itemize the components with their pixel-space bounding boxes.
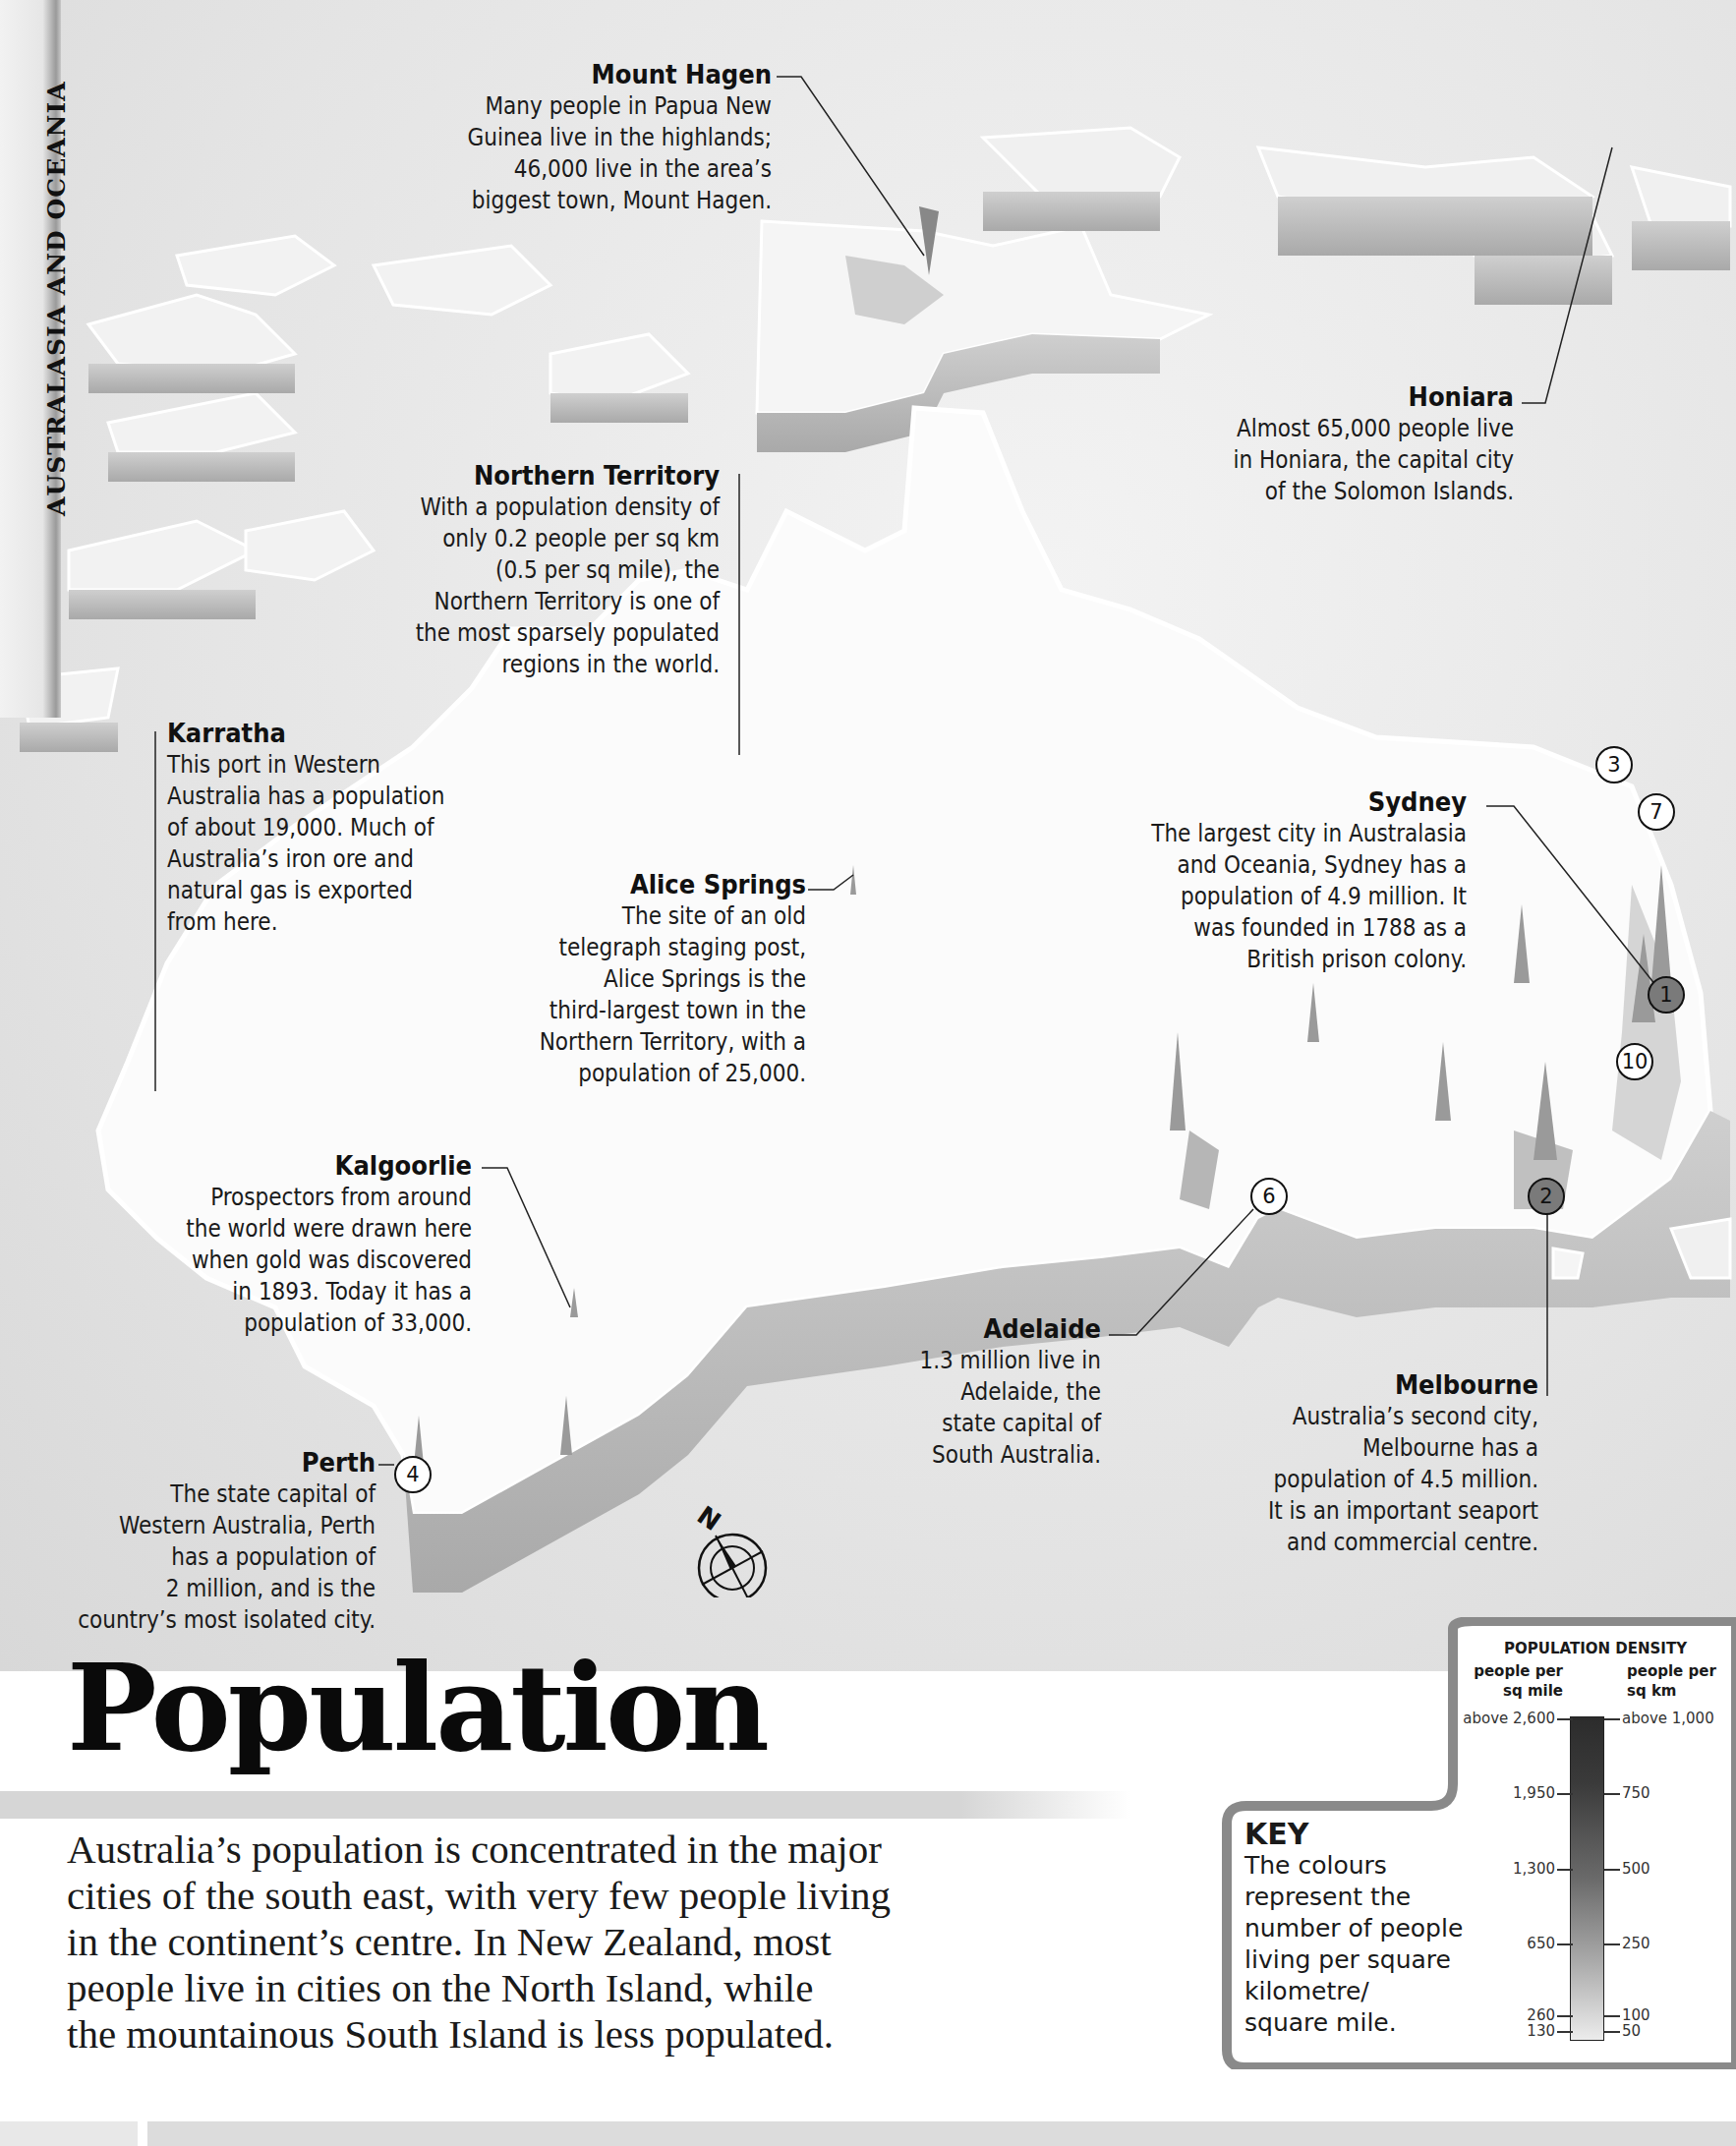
legend-tick-right: above 1,000 (1622, 1711, 1714, 1726)
key-heading: KEY (1244, 1819, 1463, 1850)
annotation-title: Melbourne (1199, 1369, 1538, 1401)
legend-tick-left: 130 (1418, 2023, 1555, 2039)
legend-tick-right: 50 (1622, 2023, 1641, 2039)
annotation-northern-territory: Northern Territory With a population den… (354, 460, 720, 680)
legend-tick-left: 260 (1418, 2007, 1555, 2023)
annotation-perth: Perth The state capital of Western Austr… (0, 1447, 376, 1636)
annotation-body: With a population density of only 0.2 pe… (354, 492, 720, 680)
section-tab: AUSTRALASIA AND OCEANIA (0, 0, 61, 718)
density-color-bar (1570, 1716, 1604, 2041)
intro-line: people live in cities on the North Islan… (67, 1965, 1099, 2011)
annotation-sydney: Sydney The largest city in Australasia a… (1081, 786, 1467, 975)
city-marker-4-perth[interactable]: 4 (394, 1456, 432, 1493)
legend-tick-mark (1557, 1943, 1573, 1945)
page-title: Population (67, 1637, 767, 1778)
annotation-body: The site of an old telegraph staging pos… (462, 900, 806, 1089)
svg-text:N: N (692, 1500, 726, 1537)
legend-tick-mark (1557, 1869, 1573, 1871)
city-marker-10[interactable]: 10 (1616, 1043, 1653, 1080)
intro-line: the mountainous South Island is less pop… (67, 2011, 1099, 2058)
key-description: KEY The colours represent the number of … (1244, 1819, 1463, 2039)
annotation-body: 1.3 million live in Adelaide, the state … (865, 1345, 1101, 1471)
legend-tick-left: 650 (1418, 1936, 1555, 1951)
legend-tick-mark (1604, 2031, 1620, 2033)
annotation-body: This port in Western Australia has a pop… (167, 749, 501, 938)
legend-tick-mark (1557, 2015, 1573, 2017)
city-marker-7[interactable]: 7 (1638, 793, 1675, 831)
annotation-alice-springs: Alice Springs The site of an old telegra… (462, 869, 806, 1089)
annotation-title: Perth (0, 1447, 376, 1479)
footer-band (0, 2121, 138, 2146)
annotation-body: The state capital of Western Australia, … (0, 1479, 376, 1636)
intro-line: Australia’s population is concentrated i… (67, 1827, 1099, 1873)
legend-tick-left: above 2,600 (1418, 1711, 1555, 1726)
legend-unit-sq-mile: people per sq mile (1465, 1661, 1563, 1701)
footer-band (147, 2121, 1736, 2146)
annotation-kalgoorlie: Kalgoorlie Prospectors from around the w… (128, 1150, 472, 1339)
legend-tick-right: 250 (1622, 1936, 1650, 1951)
legend-tick-right: 500 (1622, 1861, 1650, 1877)
annotation-title: Honiara (1150, 381, 1514, 413)
legend-title: POPULATION DENSITY (1455, 1640, 1736, 1657)
section-tab-label: AUSTRALASIA AND OCEANIA (42, 81, 71, 516)
annotation-title: Mount Hagen (413, 59, 772, 90)
city-marker-2-melbourne[interactable]: 2 (1528, 1178, 1565, 1215)
city-marker-1-sydney[interactable]: 1 (1648, 976, 1685, 1014)
annotation-title: Alice Springs (462, 869, 806, 900)
title-divider-band (0, 1791, 1130, 1819)
annotation-title: Sydney (1081, 786, 1467, 818)
legend-tick-mark (1604, 1793, 1620, 1795)
legend-tick-left: 1,950 (1418, 1785, 1555, 1801)
annotation-karratha: Karratha This port in Western Australia … (167, 718, 501, 938)
tasmania (1553, 1248, 1583, 1278)
legend-unit-sq-km: people per sq km (1627, 1661, 1735, 1701)
annotation-title: Northern Territory (354, 460, 720, 492)
annotation-melbourne: Melbourne Australia’s second city, Melbo… (1199, 1369, 1538, 1558)
annotation-body: The largest city in Australasia and Ocea… (1081, 818, 1467, 975)
intro-line: cities of the south east, with very few … (67, 1873, 1099, 1919)
legend-tick-mark (1557, 2031, 1573, 2033)
compass-rose-icon: N (678, 1489, 777, 1601)
annotation-body: Prospectors from around the world were d… (128, 1182, 472, 1339)
legend-tick-mark (1604, 1869, 1620, 1871)
annotation-body: Australia’s second city, Melbourne has a… (1199, 1401, 1538, 1558)
annotation-body: Almost 65,000 people live in Honiara, th… (1150, 413, 1514, 507)
legend-tick-mark (1557, 1718, 1573, 1720)
city-marker-3[interactable]: 3 (1595, 746, 1633, 783)
legend-tick-left: 1,300 (1418, 1861, 1555, 1877)
annotation-honiara: Honiara Almost 65,000 people live in Hon… (1150, 381, 1514, 507)
legend-tick-mark (1557, 1793, 1573, 1795)
annotation-title: Kalgoorlie (128, 1150, 472, 1182)
annotation-body: Many people in Papua New Guinea live in … (413, 90, 772, 216)
city-marker-6-adelaide[interactable]: 6 (1250, 1178, 1288, 1215)
legend-tick-right: 750 (1622, 1785, 1650, 1801)
intro-line: in the continent’s centre. In New Zealan… (67, 1919, 1099, 1965)
annotation-adelaide: Adelaide 1.3 million live in Adelaide, t… (865, 1313, 1101, 1471)
legend-tick-mark (1604, 1718, 1620, 1720)
annotation-mount-hagen: Mount Hagen Many people in Papua New Gui… (413, 59, 772, 216)
legend-tick-mark (1604, 1943, 1620, 1945)
annotation-title: Adelaide (865, 1313, 1101, 1345)
annotation-title: Karratha (167, 718, 501, 749)
legend-tick-mark (1604, 2015, 1620, 2017)
intro-paragraph: Australia’s population is concentrated i… (67, 1827, 1099, 2058)
legend-tick-right: 100 (1622, 2007, 1650, 2023)
